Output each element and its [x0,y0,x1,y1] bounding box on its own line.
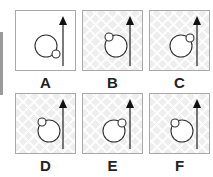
option-box-c[interactable] [149,10,210,71]
option-box-e[interactable] [82,93,143,154]
arrow-up-icon [59,99,67,108]
option-box-d[interactable] [15,93,76,154]
option-figure [83,94,142,153]
arrow-up-icon [126,16,134,25]
arrow-up-icon [193,16,201,25]
option-figure [150,11,209,70]
option-label-d: D [15,158,76,173]
small-circle-icon [105,33,113,41]
option-label-b: B [82,75,143,90]
small-circle-icon [171,119,179,127]
option-figure [16,11,75,70]
option-label-c: C [149,75,210,90]
option-box-b[interactable] [82,10,143,71]
option-figure [150,94,209,153]
arrow-up-icon [126,99,134,108]
option-figure [16,94,75,153]
arrow-up-icon [193,99,201,108]
option-figure [83,11,142,70]
option-label-a: A [15,75,76,90]
arrow-up-icon [59,16,67,25]
small-circle-icon [38,118,46,126]
small-circle-icon [118,119,126,127]
small-circle-icon [52,50,60,58]
small-circle-icon [186,34,194,42]
option-label-f: F [149,158,210,173]
option-box-f[interactable] [149,93,210,154]
side-divider-bar [0,32,3,95]
option-box-a[interactable] [15,10,76,71]
option-label-e: E [82,158,143,173]
